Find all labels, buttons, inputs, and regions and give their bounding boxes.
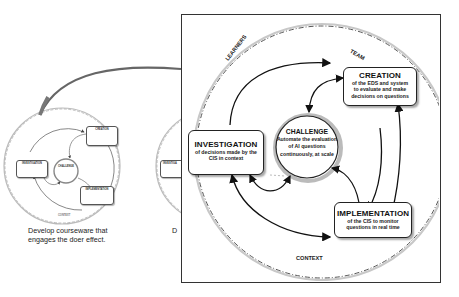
investigation-title: INVESTIGATION — [189, 140, 263, 149]
arrow-challenge-to-investigation — [250, 175, 290, 191]
implementation-box: IMPLEMENTATION of the CIS to monitor que… — [334, 202, 412, 238]
challenge-line-2: of AI questions — [271, 143, 343, 149]
arrow-implementation-to-creation — [368, 128, 382, 210]
context-label: CONTEXT — [296, 255, 323, 261]
challenge-node: CHALLENGE Automate the evaluation of AI … — [271, 128, 343, 157]
investigation-line-2: CIS in context — [189, 155, 263, 161]
creation-title: CREATION — [344, 71, 416, 80]
implementation-title: IMPLEMENTATION — [335, 209, 411, 218]
arrow-investigation-to-implementation — [232, 175, 330, 237]
challenge-title: CHALLENGE — [271, 128, 343, 135]
arrow-creation-to-challenge — [309, 78, 343, 112]
creation-line-2: to evaluate and make — [344, 86, 416, 92]
arrow-creation-to-implementation — [392, 104, 400, 212]
challenge-line-3: continuously, at scale — [271, 151, 343, 157]
creation-box: CREATION of the EDS and system to evalua… — [343, 67, 417, 106]
investigation-box: INVESTIGATION of decisions made by the C… — [188, 130, 264, 175]
challenge-line-1: Automate the evaluation — [271, 136, 343, 142]
creation-line-3: decisions on questions — [344, 93, 416, 99]
implementation-line-2: questions in real time — [335, 224, 411, 230]
diagram-stage: CREATION · · · · · ·· · · · · · · INVEST… — [0, 0, 459, 297]
